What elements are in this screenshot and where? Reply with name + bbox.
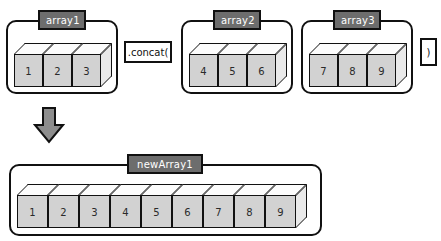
cube-front-face: 9 <box>367 54 396 87</box>
cube-front-face: 6 <box>172 195 203 228</box>
array-label-array3: array3 <box>333 10 381 30</box>
concat-token: .concat( <box>124 41 172 63</box>
cube-row-newarray1: 1 2 3 4 5 6 7 8 <box>17 184 315 228</box>
result-arrow-icon <box>33 106 65 144</box>
array-label-array2: array2 <box>213 10 261 30</box>
cube-row-array1: 1 2 3 <box>14 43 112 87</box>
cube-front-face: 1 <box>17 195 48 228</box>
close-paren-token: ) <box>420 38 437 66</box>
cube-front-face: 7 <box>309 54 338 87</box>
cube-front-face: 8 <box>234 195 265 228</box>
array-label-array1: array1 <box>38 10 86 30</box>
cube-front-face: 3 <box>72 54 101 87</box>
cube-front-face: 4 <box>110 195 141 228</box>
cube-front-face: 8 <box>338 54 367 87</box>
cube-front-face: 9 <box>265 195 296 228</box>
cube-front-face: 2 <box>43 54 72 87</box>
cube-row-array3: 7 8 9 <box>309 43 407 87</box>
cube-front-face: 3 <box>79 195 110 228</box>
cube-front-face: 2 <box>48 195 79 228</box>
diagram-canvas: array1 1 2 3 .concat( array2 4 5 6 <box>0 0 441 241</box>
cube-front-face: 7 <box>203 195 234 228</box>
array-label-newarray1: newArray1 <box>127 154 203 174</box>
cube-row-array2: 4 5 6 <box>189 43 287 87</box>
cube-front-face: 1 <box>14 54 43 87</box>
cube-front-face: 5 <box>218 54 247 87</box>
cube-front-face: 6 <box>247 54 276 87</box>
cube-front-face: 4 <box>189 54 218 87</box>
cube-front-face: 5 <box>141 195 172 228</box>
